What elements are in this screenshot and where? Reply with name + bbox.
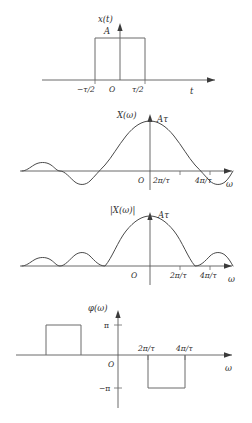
spectrum-tick-label-2pi-over-tau: 2π/τ (152, 176, 170, 185)
spectrum-tick-label-4pi-over-tau: 4π/τ (194, 176, 212, 185)
phase-negative-pi-block (148, 355, 185, 388)
magnitude-x-axis-arrow (224, 263, 232, 268)
magnitude-tick-label-2pi-over-tau: 2π/τ (169, 271, 187, 280)
panel-magnitude: |X(ω)| Aτ O 2π/τ 4π/τ ω (20, 205, 235, 285)
magnitude-curve (22, 216, 233, 266)
phase-y-tick-label-minus-pi: −π (99, 384, 110, 393)
fourier-transform-figure: x(t) A −τ/2 O τ/2 t X(ω) Aτ O 2π/τ 4π/τ … (0, 0, 252, 423)
phase-origin-label: O (108, 360, 115, 369)
magnitude-peak-label: Aτ (157, 210, 169, 220)
magnitude-x-axis-label: ω (228, 274, 235, 284)
panel-spectrum: X(ω) Aτ O 2π/τ 4π/τ ω (20, 110, 233, 190)
spectrum-signal-label: X(ω) (116, 110, 137, 120)
panel-phase: φ(ω) π −π O 2π/τ 4π/τ ω (16, 303, 232, 408)
phase-x-axis-label: ω (225, 363, 232, 373)
time-domain-origin-label: O (109, 85, 116, 94)
magnitude-origin-label: O (131, 271, 138, 280)
time-domain-x-axis-label: t (190, 86, 194, 96)
magnitude-signal-label: |X(ω)| (110, 205, 135, 216)
time-domain-y-axis-arrow (117, 23, 122, 31)
time-domain-signal-label: x(t) (98, 14, 113, 24)
phase-signal-label: φ(ω) (88, 303, 108, 313)
phase-y-tick-label-pi: π (104, 321, 109, 330)
spectrum-x-axis-label: ω (226, 179, 233, 189)
panel-time-domain: x(t) A −τ/2 O τ/2 t (42, 14, 215, 96)
spectrum-peak-label: Aτ (156, 114, 168, 124)
phase-y-axis-arrow (115, 310, 120, 318)
phase-tick-label-2pi-over-tau: 2π/τ (137, 344, 155, 353)
sinc-curve (22, 121, 233, 184)
amplitude-label: A (103, 26, 110, 36)
time-domain-x-axis-arrow (207, 77, 215, 82)
phase-x-axis-arrow (224, 352, 232, 357)
tick-label-plus-tau-over-2: τ/2 (132, 85, 144, 94)
tick-label-minus-tau-over-2: −τ/2 (77, 85, 95, 94)
phase-tick-label-4pi-over-tau: 4π/τ (175, 344, 193, 353)
spectrum-origin-label: O (138, 176, 145, 185)
magnitude-tick-label-4pi-over-tau: 4π/τ (199, 271, 217, 280)
phase-positive-pi-block (46, 325, 81, 355)
spectrum-x-axis-arrow (224, 168, 232, 173)
